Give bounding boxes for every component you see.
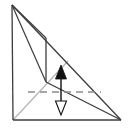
triangle-diagram-svg bbox=[0, 0, 130, 132]
figure-root bbox=[0, 0, 130, 132]
